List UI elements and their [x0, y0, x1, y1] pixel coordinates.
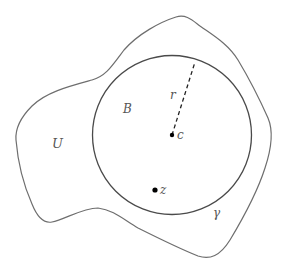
label-z: z [159, 183, 167, 197]
label-gamma: γ [213, 206, 221, 220]
label-r: r [170, 88, 177, 102]
label-u: U [52, 136, 64, 151]
label-c: c [177, 128, 184, 142]
label-b: B [122, 102, 132, 116]
diagram-canvas: U B r c z γ [0, 0, 284, 268]
diagram-svg: U B r c z γ [0, 0, 284, 268]
center-point-c [170, 133, 174, 137]
point-z [152, 187, 157, 192]
